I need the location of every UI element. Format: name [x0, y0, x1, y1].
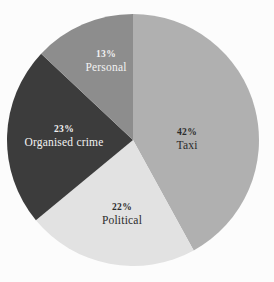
- pie-label-political-percent: 22%: [102, 202, 142, 213]
- pie-chart: 42% Taxi 22% Political 23% Organised cri…: [0, 0, 274, 282]
- pie-label-organised-crime: 23% Organised crime: [24, 124, 103, 150]
- pie-label-personal-name: Personal: [85, 61, 126, 75]
- pie-label-taxi-name: Taxi: [176, 139, 197, 153]
- pie-label-taxi-percent: 42%: [176, 127, 197, 138]
- pie-label-personal: 13% Personal: [85, 49, 126, 75]
- pie-label-organised-crime-percent: 23%: [24, 124, 103, 135]
- pie-label-organised-crime-name: Organised crime: [24, 136, 103, 150]
- pie-label-political: 22% Political: [102, 202, 142, 228]
- pie-label-political-name: Political: [102, 214, 142, 228]
- pie-label-taxi: 42% Taxi: [176, 127, 197, 153]
- pie-label-personal-percent: 13%: [85, 49, 126, 60]
